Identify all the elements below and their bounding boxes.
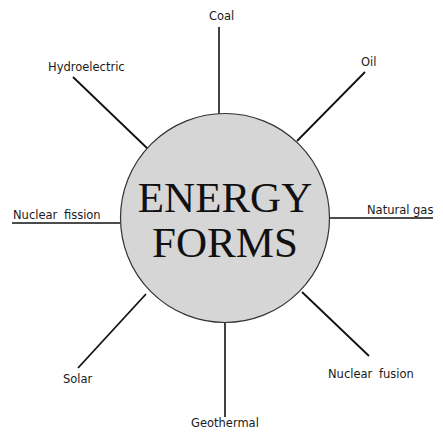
connector-solar xyxy=(78,294,146,368)
energy-forms-diagram: ENERGY FORMS Coal Oil Natural gas Nuclea… xyxy=(0,0,443,436)
label-geothermal: Geothermal xyxy=(191,418,259,430)
connector-oil xyxy=(297,72,365,141)
center-title-line2: FORMS xyxy=(125,221,325,264)
label-nuclear-fusion: Nuclear fusion xyxy=(328,369,414,381)
connector-nuclear-fusion xyxy=(302,292,369,356)
label-oil: Oil xyxy=(361,57,376,69)
label-hydroelectric: Hydroelectric xyxy=(48,62,125,74)
label-solar: Solar xyxy=(63,374,92,386)
label-nuclear-fission: Nuclear fission xyxy=(13,210,101,222)
label-natural-gas: Natural gas xyxy=(367,205,433,217)
center-title-line1: ENERGY xyxy=(125,176,325,219)
connector-hydroelectric xyxy=(73,77,149,150)
label-coal: Coal xyxy=(209,11,234,23)
